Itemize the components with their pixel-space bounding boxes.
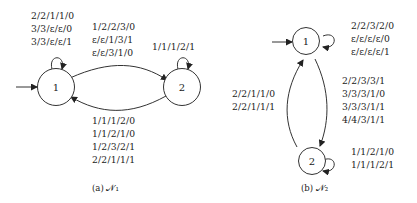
transition-label: 4/4/3/1/1: [342, 113, 385, 126]
transition-label: 1/1/1/2/1: [351, 158, 394, 171]
n1-loop-2-labels: 1/1/1/2/1: [152, 40, 195, 53]
state-label: 2: [179, 82, 185, 93]
caption-a: (a) 𝒩₁: [92, 183, 119, 194]
transition-label: 2/2/1/1/1: [92, 153, 135, 166]
state-label: 2: [309, 156, 315, 167]
n1-state-1: 1: [37, 68, 75, 106]
transition-label: 3/3/ε/ε/1: [31, 35, 74, 48]
transition-label: 3/3/ε/ε/0: [31, 22, 74, 35]
transition-label: 3/3/3/1/1: [342, 100, 385, 113]
transition-label: 1/1/1/2/0: [92, 114, 135, 127]
transition-label: 1/2/2/3/0: [92, 20, 135, 33]
n2-loop-1-labels: 2/2/3/2/0 ε/ε/ε/ε/0 ε/ε/ε/ε/1: [351, 19, 394, 58]
state-label: 1: [53, 82, 59, 93]
transition-label: 1/1/2/1/0: [351, 145, 394, 158]
transition-label: 1/2/3/2/1: [92, 140, 135, 153]
transition-label: 2/2/1/1/1: [232, 100, 275, 113]
n2-edge-1-2-labels: 2/2/3/3/1 3/3/3/1/0 3/3/3/1/1 4/4/3/1/1: [342, 74, 385, 126]
transition-label: ε/ε/ε/ε/0: [351, 32, 394, 45]
n2-state-2: 2: [298, 147, 326, 175]
n2-edge-2-1-labels: 2/2/1/1/0 2/2/1/1/1: [232, 87, 275, 113]
caption-b: (b) 𝒩₂: [301, 183, 328, 194]
transition-label: ε/ε/3/1/0: [92, 46, 135, 59]
transition-label: ε/ε/1/3/1: [92, 33, 135, 46]
transition-label: 2/2/3/3/1: [342, 74, 385, 87]
state-label: 1: [303, 36, 309, 47]
n1-edge-2-1-labels: 1/1/1/2/0 1/1/2/1/0 1/2/3/2/1 2/2/1/1/1: [92, 114, 135, 166]
transition-label: 1/1/1/2/1: [152, 40, 195, 53]
n1-edge-1-2-labels: 1/2/2/3/0 ε/ε/1/3/1 ε/ε/3/1/0: [92, 20, 135, 59]
n1-loop-1-labels: 2/2/1/1/0 3/3/ε/ε/0 3/3/ε/ε/1: [31, 9, 74, 48]
transition-label: 1/1/2/1/0: [92, 127, 135, 140]
transition-label: ε/ε/ε/ε/1: [351, 45, 394, 58]
n2-loop-2-labels: 1/1/2/1/0 1/1/1/2/1: [351, 145, 394, 171]
transition-label: 2/2/3/2/0: [351, 19, 394, 32]
n2-state-1: 1: [292, 27, 320, 55]
transition-label: 2/2/1/1/0: [232, 87, 275, 100]
transition-label: 3/3/3/1/0: [342, 87, 385, 100]
transition-label: 2/2/1/1/0: [31, 9, 74, 22]
n1-state-2: 2: [163, 68, 201, 106]
